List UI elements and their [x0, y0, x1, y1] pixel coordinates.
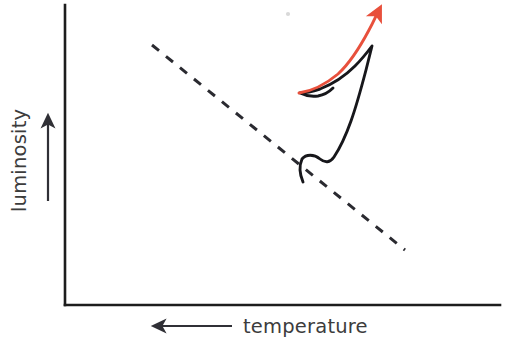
x-axis-label: temperature: [243, 315, 368, 338]
main-sequence-dashed-line: [152, 45, 405, 250]
scan-speck: [286, 12, 290, 16]
x-axis-label-group: temperature: [160, 315, 368, 338]
y-axis-label-group: luminosity: [8, 109, 48, 212]
stellar-evolutionary-track: [300, 46, 372, 182]
axis-group: [65, 5, 500, 305]
figure-root: luminosity temperature: [0, 0, 516, 347]
y-axis-label: luminosity: [8, 109, 31, 212]
luminosity-temperature-plot: luminosity temperature: [0, 0, 516, 347]
